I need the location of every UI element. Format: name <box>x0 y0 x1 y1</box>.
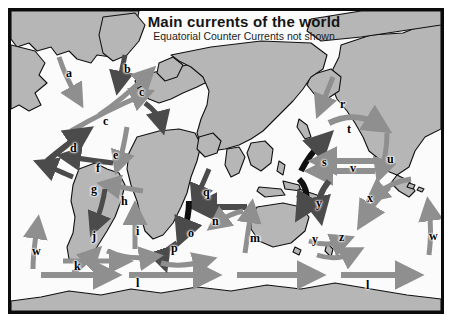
current-label-o: o <box>188 227 194 239</box>
current-label-k: k <box>74 260 81 272</box>
current-label-t: t <box>347 123 351 135</box>
current-label-r: r <box>340 98 345 110</box>
current-p-return <box>161 261 205 265</box>
current-label-e: e <box>113 149 118 161</box>
map-canvas: Main currents of the world Equatorial Co… <box>11 11 441 311</box>
current-label-j: j <box>92 230 96 242</box>
current-label-d: d <box>70 142 77 154</box>
current-label-c1: c <box>139 86 144 98</box>
current-label-u: u <box>387 153 394 165</box>
current-m-west <box>217 211 243 223</box>
screenshot-root: Main currents of the world Equatorial Co… <box>0 0 452 322</box>
current-h <box>109 185 143 191</box>
current-label-y1: y <box>316 197 322 209</box>
map-frame: Main currents of the world Equatorial Co… <box>8 8 444 314</box>
current-label-q: q <box>203 186 210 198</box>
current-label-f: f <box>96 162 100 174</box>
current-z-2 <box>317 253 353 258</box>
current-label-h: h <box>121 195 128 207</box>
current-e <box>119 127 127 163</box>
current-label-g: g <box>91 183 97 195</box>
current-label-l2: l <box>366 279 369 291</box>
current-label-n: n <box>212 215 219 227</box>
current-label-l1: l <box>136 277 139 289</box>
current-atlantic-south <box>107 251 151 258</box>
current-label-w1: w <box>32 245 41 257</box>
current-label-m: m <box>250 232 260 244</box>
current-f <box>69 157 113 163</box>
current-label-i: i <box>136 225 139 237</box>
current-subpolar-na <box>145 103 161 123</box>
current-label-a: a <box>66 67 72 79</box>
current-label-p: p <box>171 242 178 254</box>
current-label-z: z <box>339 231 344 243</box>
current-label-b: b <box>124 63 131 75</box>
current-label-x: x <box>367 192 373 204</box>
current-label-s: s <box>322 156 327 168</box>
current-y-curl <box>299 179 306 209</box>
current-label-c2: c <box>103 115 108 127</box>
current-label-v: v <box>350 162 356 174</box>
current-g <box>45 165 73 177</box>
current-t <box>329 117 379 125</box>
current-label-w2: w <box>429 230 438 242</box>
current-r <box>321 77 333 107</box>
current-s <box>301 141 323 171</box>
current-label-y2: y <box>312 233 318 245</box>
